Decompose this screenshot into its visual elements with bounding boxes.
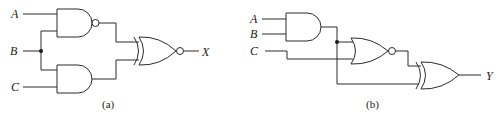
nand-bubble-a [92,20,99,27]
logic-circuits: A B C X (a) A B C Y [0,0,503,117]
junction-dot-b [335,40,339,44]
and-gate-a [57,65,92,93]
nor-gate-b [351,38,388,64]
input-label-b-B: B [250,27,258,41]
output-label-Y: Y [486,69,494,83]
xnor-extra-arc-a [134,37,139,65]
junction-dot-a [39,49,43,53]
wire-a-nand-to-xnor [99,23,139,42]
nand-gate-a [57,9,92,37]
input-label-a-B: B [10,44,18,58]
nor-bubble-b [389,48,396,55]
circuit-a: A B C X (a) [10,7,210,111]
xnor-gate-a [139,37,176,65]
xor-gate-b [421,62,459,89]
and-gate-b [286,13,321,41]
wire-a-and-to-xnor [92,60,139,79]
input-label-a-A: A [10,7,19,21]
output-label-X: X [201,45,210,59]
xnor-bubble-a [177,48,184,55]
input-label-b-A: A [249,12,258,26]
input-label-a-C: C [11,80,20,94]
caption-b: (b) [366,98,379,111]
circuit-b: A B C Y (b) [249,12,494,111]
wire-b-C [265,51,353,59]
caption-a: (a) [102,98,115,111]
input-label-b-C: C [250,44,259,58]
